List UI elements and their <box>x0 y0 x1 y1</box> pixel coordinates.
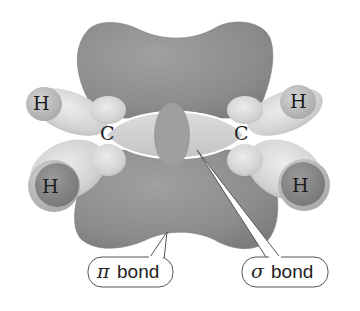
right-lobe-down <box>227 144 263 176</box>
hydrogen-label-top-right: H <box>290 90 307 112</box>
ethylene-bond-diagram: H H H H C C π bond σ bond <box>0 0 360 311</box>
sigma-bond-callout: σ bond <box>242 257 328 287</box>
pi-bond-label: bond <box>117 261 159 282</box>
pi-symbol: π <box>96 260 110 282</box>
right-lobe-up <box>227 96 263 124</box>
hydrogen-label-bottom-right: H <box>292 174 309 196</box>
pi-bond-callout: π bond <box>88 257 173 287</box>
carbon-label-left: C <box>100 122 115 144</box>
sigma-bond-core <box>154 103 190 167</box>
left-lobe-up <box>90 96 126 124</box>
carbon-label-right: C <box>234 122 249 144</box>
hydrogen-label-bottom-left: H <box>42 175 59 197</box>
left-lobe-down <box>90 144 126 176</box>
sigma-symbol: σ <box>251 260 265 282</box>
sigma-bond-label: bond <box>271 261 313 282</box>
hydrogen-label-top-left: H <box>33 92 50 114</box>
